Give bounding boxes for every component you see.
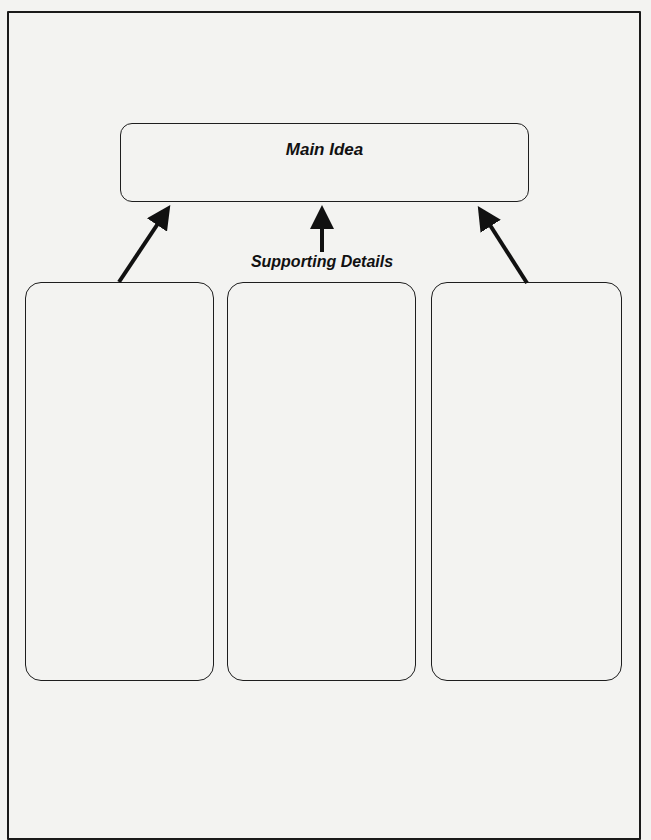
arrows-layer — [0, 0, 651, 840]
arrow-right-icon — [481, 211, 527, 283]
arrow-left-icon — [119, 210, 167, 282]
